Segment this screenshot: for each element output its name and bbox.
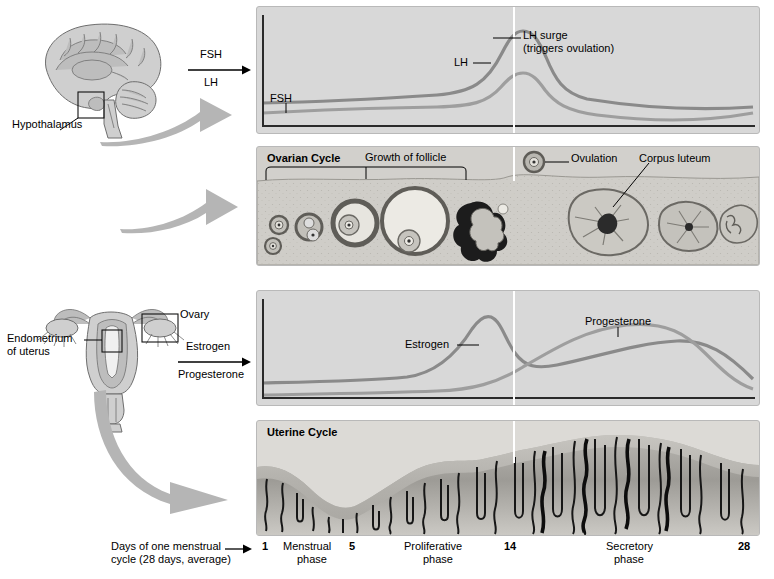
brain-to-panel1-arrow	[100, 98, 250, 146]
growth-of-follicle-label: Growth of follicle	[365, 151, 446, 164]
progesterone-arrow-label: Progesterone	[178, 368, 244, 381]
progesterone-curve	[263, 324, 753, 395]
lh-label: LH	[454, 56, 468, 69]
estrogen-curve	[263, 317, 753, 384]
fsh-lh-arrow-group: FSH LH	[186, 48, 252, 92]
estrogen-progesterone-arrow-group: Estrogen Progesterone	[176, 340, 252, 384]
fsh-arrow-label: FSH	[200, 48, 222, 61]
fsh-leader	[283, 103, 297, 117]
phase-secretory-line1: Secretory	[606, 540, 653, 553]
corpus-albicans	[720, 205, 757, 243]
follicle-graafian	[382, 188, 448, 254]
hypothalamus-label: Hypothalamus	[12, 118, 82, 131]
panel-ovarian-cycle: Ovarian Cycle Growth of follicle Ovulati…	[256, 146, 760, 266]
panel2-ovulation-line	[513, 147, 515, 181]
follicle-primordial	[265, 216, 288, 254]
fsh-curve	[263, 73, 753, 120]
panel1-y-axis	[262, 15, 264, 125]
phase-menstrual-line1: Menstrual	[283, 540, 331, 553]
pituitary-curves	[257, 7, 759, 133]
panel-uterine-cycle: Uterine Cycle	[256, 420, 760, 536]
cycle-caption-arrow-icon	[225, 543, 253, 555]
estrogen-progesterone-arrow-icon	[176, 356, 252, 368]
follicle-ruptured	[453, 183, 515, 261]
estrogen-leader	[457, 339, 489, 353]
corpus-luteum-leader	[609, 163, 659, 213]
endometrium-label-line2: of uterus	[7, 345, 50, 358]
day-tick-28: 28	[738, 540, 750, 553]
follicle-secondary	[333, 201, 377, 245]
ovarian-hormone-curves	[257, 291, 759, 405]
follicle-primary	[296, 214, 322, 241]
panel4-ovulation-line	[513, 421, 515, 463]
panel1-ovulation-line	[513, 7, 515, 133]
progesterone-leader	[615, 327, 629, 341]
panel3-y-axis	[262, 299, 264, 397]
phase-secretory-line2: phase	[614, 553, 644, 566]
lh-arrow-label: LH	[204, 76, 218, 89]
menstrual-cycle-diagram: { "figure": { "title": "Hormonal regulat…	[0, 0, 774, 579]
corpus-luteum-regressing	[659, 202, 717, 251]
lh-surge-label-line2: (triggers ovulation)	[523, 42, 614, 55]
phase-proliferative-line2: phase	[423, 553, 453, 566]
cycle-caption-line1: Days of one menstrual	[111, 540, 221, 553]
brain-to-panel2-arrow	[120, 185, 255, 235]
day-tick-14: 14	[504, 540, 516, 553]
lh-surge-label-line1: LH surge	[523, 29, 568, 42]
estrogen-label: Estrogen	[405, 338, 449, 351]
day-tick-1: 1	[262, 540, 268, 553]
fsh-lh-arrow-icon	[186, 64, 252, 76]
phase-menstrual-line2: phase	[297, 553, 327, 566]
panel-pituitary-hormones: LH surge (triggers ovulation) LH FSH	[256, 6, 760, 134]
panel3-ovulation-line	[513, 291, 515, 405]
panel3-x-axis	[262, 397, 755, 399]
cycle-caption-line2: cycle (28 days, average)	[111, 553, 231, 566]
estrogen-arrow-label: Estrogen	[186, 340, 230, 353]
ovary-label: Ovary	[180, 308, 209, 321]
progesterone-label: Progesterone	[585, 315, 651, 328]
uterus-to-panel4-arrow	[100, 390, 260, 515]
growth-of-follicle-bracket	[265, 165, 475, 181]
phase-proliferative-line1: Proliferative	[404, 540, 462, 553]
panel1-x-axis	[262, 125, 755, 127]
day-tick-5: 5	[349, 540, 355, 553]
ovarian-cycle-title: Ovarian Cycle	[267, 152, 340, 165]
lh-leader	[473, 57, 499, 71]
endometrium-label-line1: Endometrium	[7, 332, 72, 345]
panel-ovarian-hormones: Estrogen Progesterone	[256, 290, 760, 406]
uterine-cycle-title: Uterine Cycle	[267, 426, 337, 439]
